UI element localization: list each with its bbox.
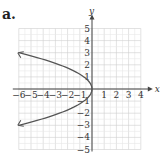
svg-text:1: 1 <box>101 90 107 100</box>
svg-text:4: 4 <box>138 90 144 100</box>
svg-text:−5: −5 <box>77 145 91 155</box>
svg-text:3: 3 <box>126 90 132 100</box>
svg-text:5: 5 <box>84 24 90 34</box>
svg-text:2: 2 <box>84 60 90 70</box>
svg-text:2: 2 <box>114 90 120 100</box>
parabola-chart: xy −6−5−4−3−2−1123454321−1−2−3−4−5 <box>0 0 162 162</box>
svg-text:4: 4 <box>84 36 90 46</box>
svg-text:−3: −3 <box>77 120 91 130</box>
svg-text:y: y <box>88 6 95 16</box>
svg-text:−4: −4 <box>77 132 91 142</box>
svg-text:−2: −2 <box>77 108 90 118</box>
svg-text:x: x <box>155 84 160 94</box>
svg-text:3: 3 <box>84 48 90 58</box>
